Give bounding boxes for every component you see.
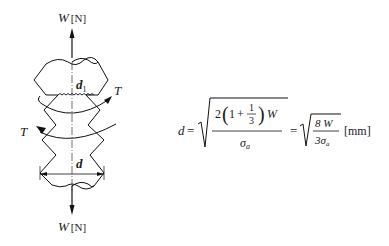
outer-diameter-label: d — [76, 156, 83, 171]
num2: 8 W — [315, 117, 333, 129]
thread-right — [86, 95, 104, 173]
num-plus: + — [237, 107, 244, 121]
torque-arc-upper-left — [38, 96, 42, 104]
formula-equals-1: = — [187, 123, 194, 138]
root-diameter-label: d1 — [76, 77, 87, 94]
num-W: W — [267, 107, 278, 121]
bolt-diagram: W[N] d1 T T d W[N] d = — [0, 0, 389, 246]
torque-arc-lower — [40, 124, 116, 138]
paren-open: ( — [222, 103, 229, 126]
bottom-break — [52, 182, 94, 189]
top-load-label: W[N] — [58, 10, 86, 25]
top-load-arrow — [70, 28, 75, 58]
formula-lhs: d — [178, 123, 185, 138]
numerator-coef: 2 — [215, 107, 221, 121]
bottom-load-arrow — [70, 186, 75, 215]
formula-equals-2: = — [290, 123, 297, 138]
inner-frac-den: 3 — [249, 115, 254, 126]
num-one: 1 — [229, 107, 235, 121]
paren-close: ) — [258, 103, 265, 126]
torque-label-left: T — [20, 124, 28, 139]
formula: d = 2 ( 1 + 1 3 ) W σa = 8 W 3σa [mm] — [178, 98, 371, 151]
thread-left — [40, 95, 58, 173]
bolt-outline-upper — [34, 62, 108, 95]
denominator: σa — [240, 136, 250, 151]
torque-label-right: T — [114, 83, 122, 98]
bottom-load-label: W[N] — [58, 219, 86, 234]
inner-frac-num: 1 — [249, 102, 254, 113]
den2: 3σa — [314, 134, 330, 148]
formula-unit: [mm] — [344, 124, 371, 138]
torque-arrow-right — [104, 96, 112, 104]
